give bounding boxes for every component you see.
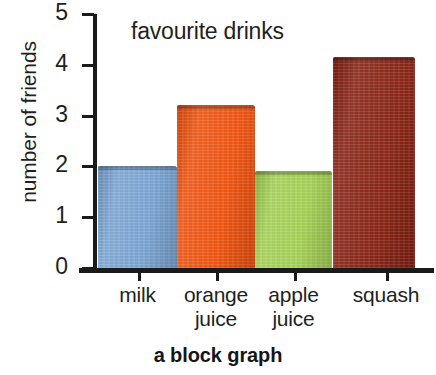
- bar-shading: [255, 171, 332, 268]
- x-axis-tick: [138, 271, 141, 281]
- chart-title: favourite drinks: [131, 18, 284, 45]
- y-axis-tick-label: 3: [42, 103, 68, 126]
- bar-orange-juice: [177, 105, 255, 268]
- x-axis-category-label: squash: [331, 283, 436, 307]
- bar-top-edge: [98, 166, 177, 170]
- y-axis-tick: [82, 267, 94, 270]
- figure-caption: a block graph: [0, 344, 436, 367]
- bar-milk: [98, 166, 177, 268]
- x-axis-tick: [216, 271, 219, 281]
- category-label-line1: squash: [353, 283, 420, 306]
- y-axis-tick: [82, 115, 94, 118]
- bar-top-edge: [255, 171, 332, 175]
- bar-squash: [333, 57, 415, 268]
- x-axis-tick: [294, 271, 297, 281]
- bar-shading: [98, 166, 177, 268]
- bar-top-edge: [177, 105, 255, 109]
- y-axis-tick-label: 1: [42, 204, 68, 227]
- y-axis-tick-label: 4: [42, 52, 68, 75]
- bar-shading: [177, 105, 255, 268]
- y-axis-tick: [82, 13, 94, 16]
- x-axis-line: [79, 268, 434, 273]
- y-axis-tick: [82, 165, 94, 168]
- y-axis-tick: [82, 64, 94, 67]
- y-axis-tick-label: 0: [42, 255, 68, 278]
- category-label-line2: juice: [239, 307, 349, 331]
- category-label-line1: apple: [268, 283, 318, 306]
- x-axis-tick: [386, 271, 389, 281]
- y-axis-tick-label: 2: [42, 153, 68, 176]
- bar-shading: [333, 57, 415, 268]
- y-axis-line: [93, 14, 97, 270]
- y-axis-tick-label: 5: [42, 1, 68, 24]
- category-label-line1: milk: [119, 283, 156, 306]
- block-graph-figure: number of friends 012345 favourite drink…: [0, 0, 436, 375]
- y-axis-tick: [82, 216, 94, 219]
- bar-top-edge: [333, 57, 415, 61]
- bar-apple-juice: [255, 171, 332, 268]
